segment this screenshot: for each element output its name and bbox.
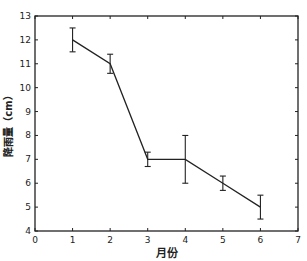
x-tick-label: 7 — [295, 235, 301, 245]
y-tick-label: 12 — [20, 35, 31, 45]
x-tick-label: 6 — [258, 235, 264, 245]
data-series — [70, 28, 264, 219]
y-tick-label: 10 — [20, 83, 32, 93]
series-line — [73, 40, 261, 207]
x-tick-label: 2 — [107, 235, 113, 245]
y-axis-label: 降雨量（cm） — [2, 90, 14, 156]
x-tick-label: 0 — [32, 235, 38, 245]
y-axis-ticks: 45678910111213 — [20, 11, 298, 236]
x-tick-label: 1 — [70, 235, 76, 245]
y-tick-label: 11 — [20, 59, 31, 69]
y-tick-label: 4 — [25, 226, 31, 236]
y-tick-label: 13 — [20, 11, 31, 21]
plot-frame — [35, 16, 298, 231]
x-axis-label: 月份 — [155, 246, 179, 260]
rainfall-chart: 01234567 45678910111213 月份 降雨量（cm） — [0, 0, 307, 261]
y-tick-label: 7 — [25, 154, 31, 164]
y-tick-label: 6 — [25, 178, 31, 188]
y-tick-label: 8 — [25, 130, 31, 140]
x-tick-label: 5 — [220, 235, 226, 245]
x-tick-label: 4 — [182, 235, 188, 245]
y-tick-label: 5 — [25, 202, 31, 212]
x-tick-label: 3 — [145, 235, 151, 245]
y-tick-label: 9 — [25, 107, 31, 117]
